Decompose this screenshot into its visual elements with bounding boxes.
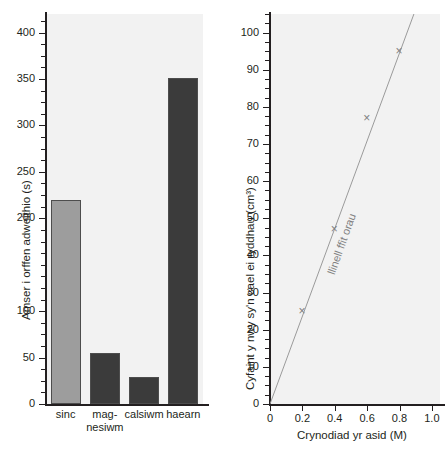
y-major-tick [39,79,45,80]
data-point-marker: × [363,112,370,124]
y-minor-tick [41,21,45,22]
y-minor-tick [265,246,269,247]
y-minor-tick [265,125,269,126]
y-major-tick [263,144,269,145]
y-minor-tick [41,67,45,68]
x-major-tick [432,406,433,411]
y-minor-tick [265,283,269,284]
y-major-tick [39,311,45,312]
y-minor-tick [265,116,269,117]
y-minor-tick [265,14,269,15]
y-minor-tick [41,323,45,324]
y-minor-tick [41,183,45,184]
data-point-marker: × [396,45,403,57]
x-major-tick [335,406,336,411]
y-minor-tick [41,160,45,161]
y-minor-tick [41,102,45,103]
y-minor-tick [41,265,45,266]
y-minor-tick [265,60,269,61]
category-label-line: haearn [143,408,223,421]
y-minor-tick [265,302,269,303]
y-minor-tick [265,190,269,191]
y-minor-tick [265,23,269,24]
y-minor-tick [41,195,45,196]
y-minor-tick [265,98,269,99]
y-major-tick [263,181,269,182]
y-major-tick [39,358,45,359]
y-minor-tick [265,395,269,396]
y-major-tick [263,218,269,219]
y-major-tick [39,125,45,126]
y-major-tick [263,404,269,405]
bar [168,78,198,404]
x-tick-label: 1.0 [412,412,445,424]
y-major-tick [39,404,45,405]
y-tick-label: 90 [222,64,259,75]
y-tick-label: 250 [0,166,35,177]
scatter-x-axis [269,404,445,406]
y-minor-tick [265,339,269,340]
y-major-tick [39,33,45,34]
bar-y-axis [45,12,47,406]
y-tick-label: 300 [0,119,35,130]
scatter-x-axis-title: Crynodiad yr asid (M) [252,429,445,441]
y-minor-tick [265,358,269,359]
y-major-tick [39,218,45,219]
y-major-tick [263,255,269,256]
y-minor-tick [265,88,269,89]
x-major-tick [400,406,401,411]
y-major-tick [263,70,269,71]
y-tick-label: 80 [222,101,259,112]
y-minor-tick [41,253,45,254]
y-major-tick [39,172,45,173]
y-minor-tick [41,149,45,150]
bar [51,200,81,404]
figure-root: 050100200250300350400 Amser i orffen adw… [0,0,445,452]
x-major-tick [367,406,368,411]
category-label-line: nesiwm [65,421,145,434]
y-minor-tick [265,274,269,275]
data-point-marker: × [331,223,338,235]
y-minor-tick [265,42,269,43]
y-minor-tick [265,228,269,229]
y-major-tick [263,367,269,368]
y-minor-tick [41,207,45,208]
y-minor-tick [41,44,45,45]
y-minor-tick [41,369,45,370]
scatter-chart-panel: 0102030405060708090100 00.20.40.60.81.0 … [222,0,445,452]
y-minor-tick [265,153,269,154]
y-tick-label: 350 [0,73,35,84]
figure-caption [6,443,439,452]
data-point-marker: × [298,305,305,317]
y-minor-tick [265,51,269,52]
best-fit-line [270,14,440,404]
y-minor-tick [41,91,45,92]
category-label: haearn [143,408,223,421]
y-tick-label: 60 [222,175,259,186]
y-tick-label: 50 [0,352,35,363]
y-tick-label: 100 [222,27,259,38]
y-minor-tick [265,320,269,321]
bar [129,377,159,404]
y-minor-tick [265,163,269,164]
y-minor-tick [41,137,45,138]
y-minor-tick [41,392,45,393]
y-minor-tick [41,230,45,231]
y-minor-tick [41,300,45,301]
scatter-y-axis-title: Cyfaint y nwy sy'n cael ei ryddhau (cm³) [244,187,256,390]
y-minor-tick [265,135,269,136]
y-minor-tick [41,56,45,57]
y-minor-tick [265,79,269,80]
y-minor-tick [265,311,269,312]
x-major-tick [302,406,303,411]
y-minor-tick [41,334,45,335]
y-minor-tick [265,209,269,210]
y-minor-tick [41,114,45,115]
x-major-tick [270,406,271,411]
y-minor-tick [265,237,269,238]
y-tick-label: 70 [222,138,259,149]
y-minor-tick [265,348,269,349]
y-tick-label: 400 [0,27,35,38]
y-minor-tick [41,381,45,382]
y-major-tick [263,33,269,34]
